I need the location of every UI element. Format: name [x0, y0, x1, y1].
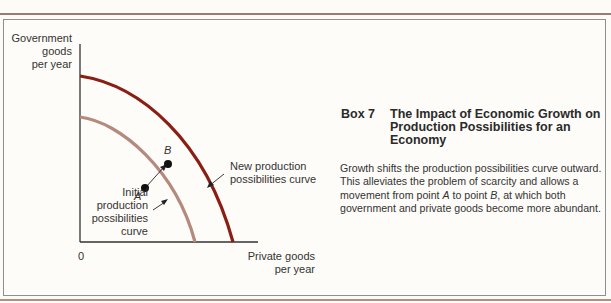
y-axis-label-line: per year [4, 58, 72, 71]
initial-curve-label-line: production [80, 199, 148, 212]
initial-curve-label-line: curve [80, 225, 148, 238]
y-axis-label: Government goods per year [4, 32, 72, 71]
initial-curve-label-line: Initial [80, 186, 148, 199]
a-to-b-arrow [146, 167, 164, 187]
point-b-label: B [164, 144, 171, 157]
new-curve-label: New production possibilities curve [230, 160, 316, 186]
y-axis-label-line: Government [4, 32, 72, 45]
box-title: The Impact of Economic Growth on Product… [390, 108, 605, 147]
new-curve-label-line: possibilities curve [230, 173, 316, 186]
x-axis-label: Private goods per year [230, 250, 315, 276]
box-number: Box 7 [341, 108, 375, 121]
box-title-line: Economy [390, 134, 605, 147]
y-axis-label-line: goods [4, 45, 72, 58]
x-axis-label-line: Private goods [230, 250, 315, 263]
caption-point-a: A [442, 189, 449, 201]
box-caption: Growth shifts the production possibiliti… [340, 162, 610, 215]
initial-curve-label-line: possibilities [80, 212, 148, 225]
new-curve-label-line: New production [230, 160, 316, 173]
caption-text: to point [450, 189, 491, 201]
x-axis-label-line: per year [230, 263, 315, 276]
initial-curve-label: Initial production possibilities curve [80, 186, 148, 238]
origin-label: 0 [78, 250, 84, 263]
bottom-rule [0, 299, 611, 301]
point-b [164, 160, 172, 168]
